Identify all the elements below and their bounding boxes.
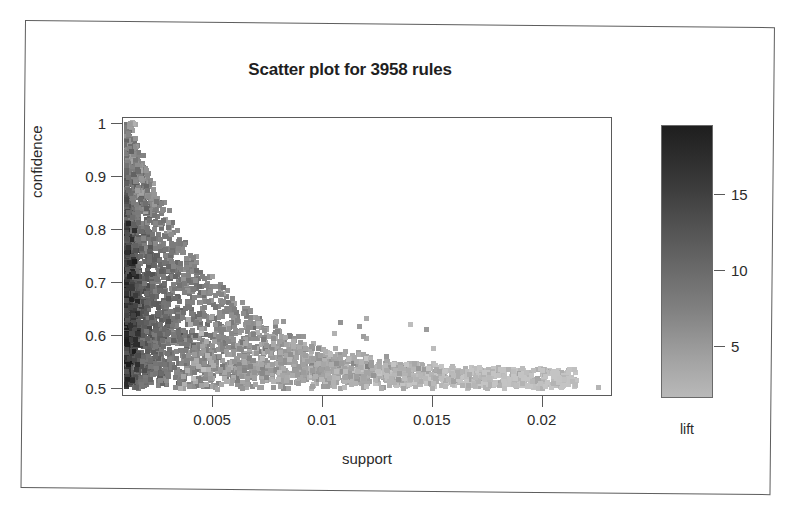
scatter-point: [296, 381, 301, 386]
scatter-point: [245, 382, 250, 387]
scatter-point: [181, 374, 186, 379]
scatter-point: [185, 368, 190, 373]
colorbar-tick-label: 5: [731, 338, 739, 355]
x-tick-mark: [322, 396, 323, 407]
scatter-point: [133, 136, 138, 141]
scatter-point: [144, 291, 149, 296]
scatter-point: [482, 370, 487, 375]
scatter-point: [224, 379, 229, 384]
scatter-point: [467, 372, 472, 377]
y-tick-label: 1: [98, 115, 106, 132]
scatter-point: [321, 384, 326, 389]
scatter-point: [132, 228, 137, 233]
scatter-point: [183, 348, 188, 353]
scatter-point: [397, 371, 402, 376]
scatter-point: [389, 376, 394, 381]
scatter-point: [194, 358, 199, 363]
scatter-point: [224, 349, 229, 354]
scatter-point: [310, 384, 315, 389]
scatter-point: [166, 330, 171, 335]
scatter-point: [150, 284, 155, 289]
scatter-point: [570, 379, 575, 384]
scatter-point: [406, 368, 411, 373]
colorbar-tick-mark: [714, 270, 725, 271]
scatter-point: [198, 300, 203, 305]
scatter-point: [243, 341, 248, 346]
scatter-point: [319, 377, 324, 382]
scatter-point: [524, 370, 529, 375]
scatter-point: [283, 335, 288, 340]
scatter-point: [129, 284, 134, 289]
scatter-point: [301, 334, 306, 339]
scatter-point: [319, 367, 324, 372]
scatter-points-layer: [123, 118, 611, 395]
scatter-point: [135, 188, 140, 193]
scatter-point: [182, 281, 187, 286]
scatter-point: [404, 362, 409, 367]
scatter-point: [178, 386, 183, 391]
scatter-point: [174, 356, 179, 361]
scatter-point: [276, 377, 281, 382]
scatter-point: [169, 309, 174, 314]
scatter-point: [237, 346, 242, 351]
scatter-point: [295, 372, 300, 377]
scatter-point: [184, 342, 189, 347]
scatter-point: [226, 321, 231, 326]
scatter-point: [145, 188, 150, 193]
scatter-point: [210, 274, 215, 279]
scatter-point: [152, 213, 157, 218]
scatter-point: [144, 168, 149, 173]
scatter-point: [163, 247, 168, 252]
scatter-point: [203, 376, 208, 381]
scatter-point: [166, 296, 171, 301]
scatter-point: [338, 320, 343, 325]
scatter-point: [166, 302, 171, 307]
scatter-point: [171, 264, 176, 269]
scatter-point: [213, 284, 218, 289]
scatter-point: [202, 361, 207, 366]
scatter-point: [139, 229, 144, 234]
scatter-point: [287, 357, 292, 362]
x-tick-label: 0.01: [307, 411, 336, 428]
scatter-point: [349, 366, 354, 371]
scatter-point: [161, 241, 166, 246]
scatter-point: [144, 300, 149, 305]
scatter-point: [254, 351, 259, 356]
scatter-point: [124, 197, 129, 202]
scatter-point: [525, 384, 530, 389]
y-tick-mark: [111, 123, 122, 124]
scatter-point: [124, 332, 129, 337]
scatter-point: [562, 377, 567, 382]
scatter-point: [150, 232, 155, 237]
scatter-point: [450, 365, 455, 370]
scatter-point: [194, 268, 199, 273]
scatter-point: [176, 246, 181, 251]
scatter-point: [135, 210, 140, 215]
scatter-point: [133, 337, 138, 342]
scatter-point: [246, 325, 251, 330]
scatter-point: [221, 285, 226, 290]
scatter-point: [466, 383, 471, 388]
scatter-point: [265, 349, 270, 354]
scatter-point: [477, 365, 482, 370]
x-tick-mark: [432, 396, 433, 407]
scatter-point: [379, 386, 384, 391]
scatter-point: [339, 361, 344, 366]
scatter-point: [323, 349, 328, 354]
scatter-point: [256, 321, 261, 326]
scatter-point: [305, 359, 310, 364]
scatter-point: [162, 281, 167, 286]
scatter-point: [178, 261, 183, 266]
scatter-point: [136, 220, 141, 225]
scatter-point: [152, 263, 157, 268]
scatter-point: [126, 188, 131, 193]
scatter-point: [398, 365, 403, 370]
scatter-point: [424, 327, 429, 332]
scatter-point: [278, 357, 283, 362]
scatter-point: [364, 316, 369, 321]
scatter-point: [175, 228, 180, 233]
scatter-point: [152, 257, 157, 262]
scatter-point: [496, 373, 501, 378]
scatter-point: [271, 385, 276, 390]
x-tick-label: 0.015: [413, 411, 451, 428]
